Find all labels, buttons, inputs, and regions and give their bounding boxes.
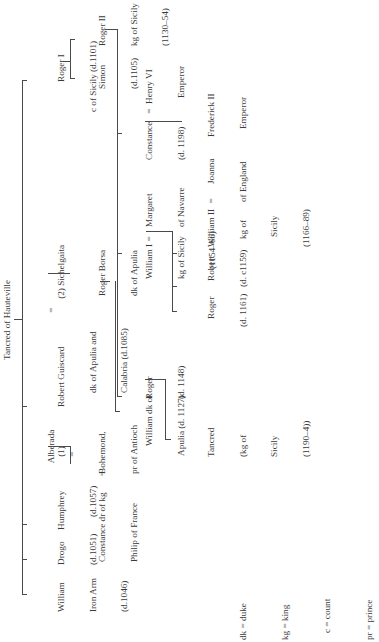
tick-robert (172, 286, 177, 287)
descent-roger-1148 (145, 379, 165, 380)
children-roger-i-bar (70, 39, 71, 79)
descent-tancred-bar (165, 379, 166, 440)
person-william-ii: William II = kg of Sicily (1166–89) (185, 198, 332, 247)
descent-roger-borsa (100, 281, 110, 282)
descent-frederick-line (145, 121, 182, 122)
person-roger-1161: Roger (d. 1161) (185, 294, 269, 327)
tick-roger-i (22, 80, 27, 81)
sibling-bar-gen1 (22, 81, 23, 595)
person-frederick-ii: Frederick II Emperor (185, 93, 269, 137)
tick-roger-1148 (117, 396, 122, 397)
descent-sichelgaita (48, 273, 70, 274)
children-roger-ii-bar (117, 29, 118, 397)
tick-constance-1198 (117, 133, 122, 134)
legend-king: kg = king (278, 599, 292, 642)
person-robert-c1159: Robert (d. c1159) (185, 250, 269, 287)
root-drop-line (14, 319, 22, 320)
person-william-iron-arm: William Iron Arm (d.1046) (35, 578, 151, 612)
person-constance-of-france: Constance dr of kg= Philip of France (76, 471, 160, 562)
legend-prince: pr = prince (362, 599, 376, 642)
descent-william-i (146, 231, 172, 232)
tick-simon (70, 78, 75, 79)
person-roger-ii: Roger II kg of Sicily (1130–54) (76, 3, 192, 46)
tick-humphrey (22, 524, 27, 525)
tick-william-apulia (115, 411, 120, 412)
tick-drogo (22, 559, 27, 560)
tick-william-ii (172, 253, 177, 254)
tick-tancred (165, 439, 171, 440)
descent-roger-i (60, 61, 70, 62)
tree-root-title: Tancred of Hauteville (2, 260, 13, 380)
legend-count: c = count (320, 599, 334, 642)
tick-robert (22, 406, 27, 407)
children-william-i-bar (172, 231, 173, 312)
tick-william (22, 594, 27, 595)
descent-bohemond-bar (70, 446, 71, 464)
descent-roger-ii (105, 29, 117, 30)
tick-roger-ii (70, 39, 75, 40)
person-tancred: Tancred (kg of Sicily (1190–4)) (185, 421, 332, 457)
children-roger-borsa-bar (115, 281, 116, 412)
tick-roger-1161 (172, 311, 177, 312)
descent-alberada-robert (48, 446, 71, 447)
person-joanna-of-england: Joanna of England (185, 158, 269, 202)
person-sichelgaita: = (2) Sichelgaita (35, 245, 77, 322)
abbreviation-legend: dk = duke kg = king c = count pr = princ… (208, 599, 379, 642)
tick-william-i (117, 253, 122, 254)
legend-duke: dk = duke (236, 599, 250, 642)
